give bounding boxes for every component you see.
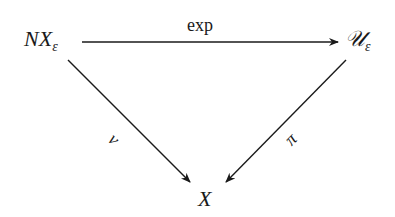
arrow-pi <box>226 60 346 182</box>
node-nx-epsilon: NXε <box>24 28 58 54</box>
node-u-epsilon: 𝒰ε <box>345 28 371 54</box>
node-u-main: 𝒰 <box>345 26 365 51</box>
node-u-sub: ε <box>365 39 371 54</box>
node-nx-sub: ε <box>52 39 58 54</box>
node-nx-main: NX <box>24 26 52 51</box>
node-x: X <box>198 188 211 210</box>
label-exp: exp <box>187 16 213 34</box>
arrow-nu <box>68 60 190 182</box>
node-x-main: X <box>198 186 211 211</box>
